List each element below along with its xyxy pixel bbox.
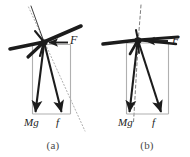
label-force-f-b: f	[152, 116, 155, 128]
parallelogram-construction-a	[33, 45, 71, 115]
panel-caption-a: (a)	[33, 139, 73, 151]
axis-dotted-line-a	[29, 7, 86, 131]
label-weight-Mg-a: Mg	[24, 116, 39, 128]
panel-b	[103, 5, 178, 123]
label-force-F-b: F	[172, 33, 179, 48]
vector-f-a	[45, 44, 62, 112]
label-weight-Mg-b: Mg	[118, 116, 133, 128]
panel-a	[10, 6, 85, 131]
panel-caption-b: (b)	[127, 139, 167, 151]
label-force-f-a: f	[56, 116, 59, 128]
vector-f-b	[139, 42, 162, 112]
force-diagram-canvas	[0, 0, 190, 157]
physics-figure: F Mg f F Mg f (a) (b)	[0, 0, 190, 157]
axis-dashed-upper-b	[139, 5, 142, 37]
label-force-F-a: F	[70, 33, 77, 48]
